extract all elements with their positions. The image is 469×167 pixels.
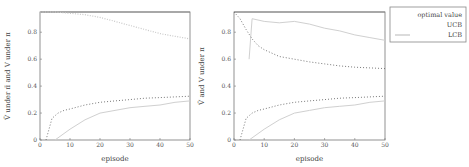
x-tick-label: 30 (321, 141, 329, 148)
series-line (240, 96, 385, 140)
chart-canvas: 0102030405000.20.40.60.8episodeV̄ under … (0, 0, 469, 167)
plot-frame (40, 12, 190, 140)
x-tick-label: 40 (351, 141, 359, 148)
y-tick-label: 0.2 (221, 109, 231, 116)
x-tick-label: 40 (156, 141, 164, 148)
x-tick-label: 20 (291, 141, 299, 148)
y-tick-label: 0 (33, 136, 37, 143)
x-tick-label: 20 (96, 141, 104, 148)
x-tick-label: 10 (66, 141, 74, 148)
series-line (46, 96, 190, 140)
legend-item-label: UCB (447, 21, 462, 29)
x-tick-label: 10 (260, 141, 268, 148)
x-tick-label: 30 (126, 141, 134, 148)
series-line (40, 12, 190, 39)
series-line (249, 19, 385, 60)
y-tick-label: 0.6 (27, 55, 37, 62)
series-line (55, 101, 190, 140)
plot-left: 0102030405000.20.40.60.8episodeV̄ under … (3, 12, 194, 163)
x-axis-label: episode (101, 155, 128, 163)
y-tick-label: 0.8 (221, 28, 231, 35)
legend-item-label: optimal value (417, 11, 462, 19)
y-tick-label: 0.4 (27, 82, 37, 89)
legend-item-label: LCB (448, 31, 462, 39)
x-axis-label: episode (296, 155, 323, 163)
series-line (234, 12, 385, 69)
x-tick-label: 50 (186, 141, 194, 148)
y-axis-label: V̄ under π̄ and V under π (3, 32, 12, 121)
x-tick-label: 0 (38, 141, 42, 148)
y-axis-label: V̄ and V under π (197, 47, 206, 106)
series-line (249, 101, 385, 140)
legend: optimal valueUCBLCB (390, 7, 466, 42)
plot-right: 0102030405000.20.40.60.8episodeV̄ and V … (197, 12, 389, 163)
y-tick-label: 0 (227, 136, 231, 143)
plot-frame (234, 12, 385, 140)
x-tick-label: 50 (381, 141, 389, 148)
x-tick-label: 0 (232, 141, 236, 148)
y-tick-label: 0.2 (27, 109, 37, 116)
y-tick-label: 0.4 (221, 82, 231, 89)
y-tick-label: 0.8 (27, 28, 37, 35)
y-tick-label: 0.6 (221, 55, 231, 62)
